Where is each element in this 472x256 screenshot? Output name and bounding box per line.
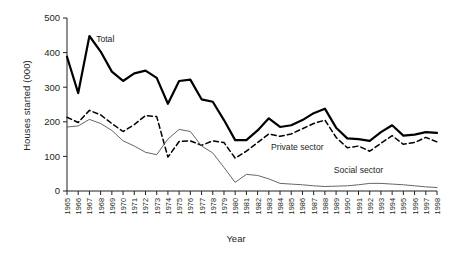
series-label: Private sector (271, 142, 324, 152)
x-tick-label: 1994 (388, 198, 397, 214)
x-tick-label: 1980 (231, 198, 240, 214)
x-tick-label: 1977 (198, 198, 207, 214)
x-tick-label: 1976 (186, 198, 195, 214)
x-tick-label: 1986 (298, 198, 307, 214)
x-tick-label: 1982 (254, 198, 263, 214)
series-line (67, 36, 437, 141)
x-tick-label: 1965 (63, 198, 72, 214)
x-tick-label: 1983 (265, 198, 274, 214)
series-line (67, 119, 437, 187)
y-tick-label: 400 (44, 47, 60, 58)
series-annotation-labels: TotalPrivate sectorSocial sector (96, 34, 383, 175)
x-tick-label: 1996 (411, 198, 420, 214)
x-tick-label: 1989 (332, 198, 341, 214)
x-tick-label: 1972 (141, 198, 150, 214)
x-tick-label: 1985 (287, 198, 296, 214)
x-tick-label: 1970 (119, 198, 128, 214)
x-tick-label: 1997 (422, 198, 431, 214)
x-tick-label: 1981 (242, 198, 251, 214)
x-tick-label: 1995 (399, 198, 408, 214)
chart-plot-area: 0100200300400500 19651966196719681969197… (0, 0, 472, 256)
series-label: Total (96, 34, 114, 44)
x-tick-label: 1990 (343, 198, 352, 214)
x-axis-ticks: 1965196619671968196919701971197219731974… (63, 191, 442, 214)
x-tick-label: 1975 (175, 198, 184, 214)
x-tick-label: 1988 (321, 198, 330, 214)
x-tick-label: 1967 (85, 198, 94, 214)
chart-figure: Houses started (000) Year 01002003004005… (0, 0, 472, 256)
x-tick-label: 1984 (276, 198, 285, 214)
y-tick-label: 0 (55, 185, 60, 196)
x-tick-label: 1969 (108, 198, 117, 214)
x-tick-label: 1971 (130, 198, 139, 214)
y-axis-ticks: 0100200300400500 (44, 12, 67, 196)
x-tick-label: 1966 (74, 198, 83, 214)
series-label: Social sector (334, 165, 383, 175)
y-tick-label: 200 (44, 116, 60, 127)
x-tick-label: 1992 (366, 198, 375, 214)
y-tick-label: 100 (44, 151, 60, 162)
x-tick-label: 1968 (97, 198, 106, 214)
x-tick-label: 1993 (377, 198, 386, 214)
x-tick-label: 1979 (220, 198, 229, 214)
x-tick-label: 1998 (433, 198, 442, 214)
x-tick-label: 1987 (310, 198, 319, 214)
x-tick-label: 1978 (209, 198, 218, 214)
x-tick-label: 1973 (153, 198, 162, 214)
x-tick-label: 1991 (355, 198, 364, 214)
x-tick-label: 1974 (164, 198, 173, 214)
y-tick-label: 500 (44, 12, 60, 23)
y-tick-label: 300 (44, 82, 60, 93)
